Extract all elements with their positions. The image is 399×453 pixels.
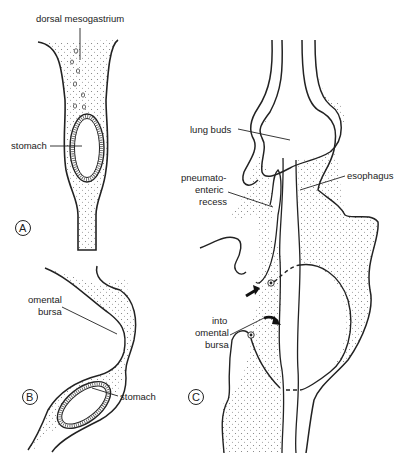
panel-b-letter: B [26,391,33,403]
vessel-dot-lower-core [250,334,253,337]
label-into-2: omental [195,327,229,338]
panel-c-letter: C [192,391,200,403]
diagram-canvas: dorsal mesogastrium stomach A omental bu… [0,0,399,453]
stomach-a-inner [75,119,100,178]
panel-a-letter: A [19,222,27,234]
label-omental-b-1: omental [28,294,62,305]
label-pneumato-2: enteric [195,184,224,195]
label-into-3: bursa [205,339,229,350]
label-esophagus: esophagus [347,170,394,181]
label-pneumato-1: pneumato- [181,172,226,183]
left-lobe-outline [200,237,246,274]
label-lung-buds: lung buds [190,124,231,135]
label-dorsal-mesogastrium: dorsal mesogastrium [36,13,124,24]
label-stomach-b: stomach [120,391,156,402]
label-pneumato-3: recess [199,196,227,207]
panel-b: omental bursa stomach B [23,266,156,452]
label-into-1: into [212,315,227,326]
vessel-dot-upper-core [270,282,273,285]
panel-c: lung buds pneumato- enteric recess esoph… [181,40,394,453]
label-stomach-a: stomach [11,140,47,151]
panel-a: dorsal mesogastrium stomach A [11,13,124,250]
label-omental-b-2: bursa [38,306,62,317]
